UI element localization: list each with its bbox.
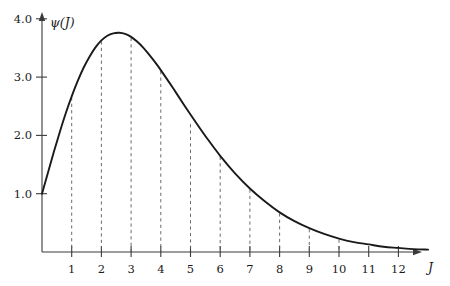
x-tick-label: 12 xyxy=(391,262,406,276)
y-axis-title: ψ(J) xyxy=(50,15,75,30)
y-tick-label: 1.0 xyxy=(14,187,32,201)
psi-j-distribution-plot: 1.02.03.04.0 ψ(J) 123456789101112 J xyxy=(0,0,450,286)
x-tick-label: 7 xyxy=(246,262,253,276)
x-tick-label: 8 xyxy=(276,262,283,276)
x-tick-label: 10 xyxy=(332,262,347,276)
x-tick-label: 9 xyxy=(306,262,313,276)
x-tick-label: 2 xyxy=(98,262,105,276)
x-tick-label: 6 xyxy=(217,262,224,276)
x-tick-label: 1 xyxy=(68,262,75,276)
y-tick-label: 4.0 xyxy=(14,12,32,26)
plot-background xyxy=(0,0,450,286)
x-tick-label: 5 xyxy=(187,262,194,276)
x-tick-label: 3 xyxy=(127,262,134,276)
y-tick-label: 2.0 xyxy=(14,128,32,142)
x-tick-label: 11 xyxy=(361,262,376,276)
chart-figure: 1.02.03.04.0 ψ(J) 123456789101112 J xyxy=(0,0,450,286)
y-tick-label: 3.0 xyxy=(14,70,32,84)
x-tick-label: 4 xyxy=(157,262,164,276)
